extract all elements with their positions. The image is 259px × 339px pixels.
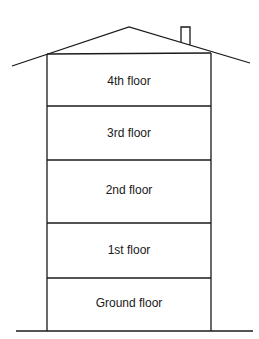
floor-label-ground: Ground floor	[47, 296, 211, 310]
floor-label-2nd: 2nd floor	[47, 183, 211, 197]
building-diagram: 4th floor 3rd floor 2nd floor 1st floor …	[0, 0, 259, 339]
floor-label-1st: 1st floor	[47, 243, 211, 257]
building-outline	[0, 0, 259, 339]
ceiling-line	[47, 53, 211, 54]
roof	[12, 27, 250, 66]
floor-label-3rd: 3rd floor	[47, 126, 211, 140]
floor-label-4th: 4th floor	[47, 74, 211, 88]
